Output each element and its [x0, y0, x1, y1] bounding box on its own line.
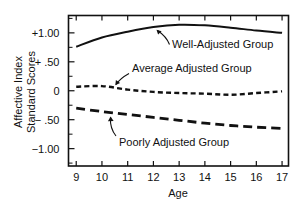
x-tick-label: 9	[73, 171, 79, 183]
x-tick-label: 11	[122, 171, 133, 183]
y-tick-label: 0	[53, 85, 59, 97]
affective-index-line-chart: +1.00+ .500− .50−1.00 91011121314151617 …	[0, 0, 304, 211]
y-tick-label: + .50	[35, 56, 60, 68]
x-tick-label: 13	[173, 171, 185, 183]
x-tick-label: 16	[250, 171, 262, 183]
y-axis-title-line-1: Affective Index	[12, 56, 24, 128]
series-label-average-adjusted: Average Adjusted Group	[132, 62, 252, 74]
chart-figure: +1.00+ .500− .50−1.00 91011121314151617 …	[0, 0, 304, 211]
x-axis-title: Age	[168, 187, 188, 199]
x-tick-label: 12	[147, 171, 159, 183]
series-label-poorly-adjusted: Poorly Adjusted Group	[119, 136, 229, 148]
x-tick-label: 14	[199, 171, 211, 183]
x-tick-label: 15	[224, 171, 236, 183]
y-tick-label: +1.00	[32, 27, 60, 39]
series-label-well-adjusted: Well-Adjusted Group	[172, 38, 273, 50]
y-tick-label: −1.00	[32, 143, 60, 155]
x-tick-label: 10	[96, 171, 108, 183]
y-axis-title-line-2: Standard Scores	[25, 51, 37, 133]
y-tick-label: − .50	[35, 114, 60, 126]
x-axis-tick-labels: 91011121314151617	[73, 171, 288, 183]
x-tick-label: 17	[276, 171, 288, 183]
